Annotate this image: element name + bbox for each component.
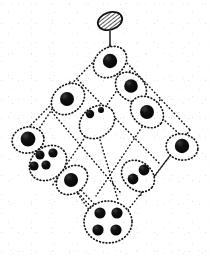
dot-mid-right-1 — [140, 105, 154, 119]
dot-lower-right-1 — [139, 165, 150, 176]
dot-bottom-1 — [94, 207, 105, 218]
dot-lower-left-3 — [29, 161, 38, 170]
diagram-svg — [0, 0, 212, 263]
dot-bottom-3 — [92, 224, 103, 235]
dot-far-left-1 — [21, 132, 36, 147]
dot-top-1 — [103, 54, 117, 68]
dot-upper-left-1 — [60, 92, 74, 106]
dot-lower-right-2 — [128, 174, 139, 185]
dot-center-2 — [98, 107, 104, 113]
dot-bottom-2 — [111, 207, 122, 218]
node-oval-bottom[interactable] — [84, 201, 132, 243]
dot-lower-left-2 — [48, 148, 57, 157]
dot-lower-left-4 — [41, 160, 50, 169]
dot-bottom-4 — [110, 224, 121, 235]
dot-lower-middle-1 — [64, 173, 78, 187]
lattice-diagram — [0, 0, 212, 263]
dot-upper-right-1 — [124, 79, 138, 93]
dot-center-1 — [86, 110, 94, 118]
dot-lower-left-1 — [35, 150, 44, 159]
dot-far-right-1 — [175, 139, 189, 153]
figure-canvas — [0, 0, 212, 263]
